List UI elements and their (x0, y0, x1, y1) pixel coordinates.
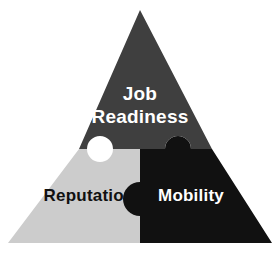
piece-job-readiness-shape (79, 10, 212, 149)
triangle-puzzle-diagram: Job Readiness Reputation Mobility (0, 0, 280, 253)
puzzle-diagram-canvas: Job Readiness Reputation Mobility (0, 0, 280, 253)
label-job-readiness-line1: Job (123, 83, 157, 104)
label-job-readiness-line2: Readiness (92, 106, 189, 127)
label-reputation: Reputation (44, 186, 135, 205)
piece-job-readiness (79, 10, 212, 149)
label-mobility: Mobility (158, 186, 224, 205)
